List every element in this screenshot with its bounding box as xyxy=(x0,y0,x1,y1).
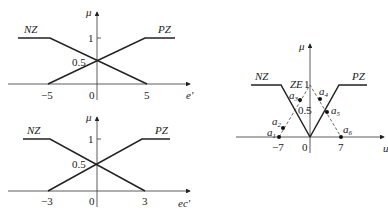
y-axis-label: μ xyxy=(85,6,92,18)
tick-label-zero: 0 xyxy=(89,195,95,207)
point-a4 xyxy=(318,97,322,101)
set-label-nz: NZ xyxy=(23,23,38,35)
point-a3 xyxy=(298,98,302,102)
tick-label-half: 0.5 xyxy=(298,104,312,116)
tick-label-pos: 5 xyxy=(144,89,150,101)
pz-curve xyxy=(48,38,175,84)
pz-curve xyxy=(48,139,170,191)
tick-label-half: 0.5 xyxy=(72,56,86,68)
point-label-a1: a1 xyxy=(267,126,276,140)
chart-e: μ e' NZ PZ 1 0.5 −5 0 5 xyxy=(8,6,194,101)
point-a5 xyxy=(325,110,329,114)
set-label-nz: NZ xyxy=(26,124,41,136)
point-label-a6: a6 xyxy=(343,123,353,137)
set-label-pz: PZ xyxy=(154,124,169,136)
point-label-a2: a2 xyxy=(272,115,282,129)
tick-label-one: 1 xyxy=(88,133,94,145)
tick-label-zero: 0 xyxy=(302,141,308,153)
point-a6 xyxy=(339,135,343,139)
y-axis-label: μ xyxy=(85,111,92,123)
fuzzy-membership-diagrams: μ e' NZ PZ 1 0.5 −5 0 5 μ ec' NZ PZ 1 0.… xyxy=(0,0,388,215)
y-axis-label: μ xyxy=(298,40,305,52)
point-a2 xyxy=(281,126,285,130)
tick-label-zero: 0 xyxy=(89,89,95,101)
set-label-nz: NZ xyxy=(254,70,269,82)
x-axis-label: u xyxy=(383,142,388,154)
x-axis-label: e' xyxy=(186,89,194,101)
point-label-a5: a5 xyxy=(331,104,341,118)
chart-u: μ u NZ ZE PZ 1 0.5 −7 0 7 a1 a2 a3 a4 a5… xyxy=(236,40,388,154)
chart-ec: μ ec' NZ PZ 1 0.5 −3 0 3 xyxy=(8,111,191,209)
set-label-pz: PZ xyxy=(351,70,366,82)
tick-label-neg: −7 xyxy=(272,141,284,153)
x-axis-label: ec' xyxy=(178,197,191,209)
point-a1 xyxy=(277,135,281,139)
point-label-a4: a4 xyxy=(319,85,329,99)
tick-label-neg: −5 xyxy=(41,89,53,101)
tick-label-pos: 3 xyxy=(142,195,148,207)
tick-label-pos: 7 xyxy=(338,141,344,153)
tick-label-one: 1 xyxy=(304,78,310,90)
tick-label-one: 1 xyxy=(88,32,94,44)
set-label-pz: PZ xyxy=(157,23,172,35)
point-label-a3: a3 xyxy=(289,89,299,103)
tick-label-neg: −3 xyxy=(41,195,53,207)
tick-label-half: 0.5 xyxy=(72,158,86,170)
